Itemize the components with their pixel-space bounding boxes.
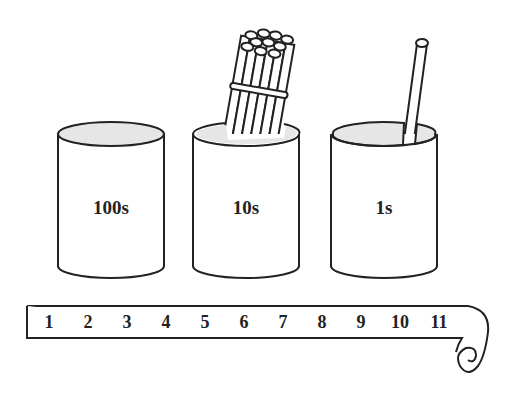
strip-number: 6 [232,312,256,333]
strip-number: 2 [76,312,100,333]
strip-number: 7 [271,312,295,333]
strip-number: 10 [388,312,412,333]
cup-label-10s: 10s [193,197,299,219]
cup-label-1s: 1s [331,197,437,219]
strip-number: 4 [154,312,178,333]
strip-number: 1 [37,312,61,333]
strip-number: 8 [310,312,334,333]
strip-number: 5 [193,312,217,333]
strip-number: 11 [427,312,451,333]
strip-number: 9 [349,312,373,333]
strip-number: 3 [115,312,139,333]
cup-label-100s: 100s [58,197,164,219]
